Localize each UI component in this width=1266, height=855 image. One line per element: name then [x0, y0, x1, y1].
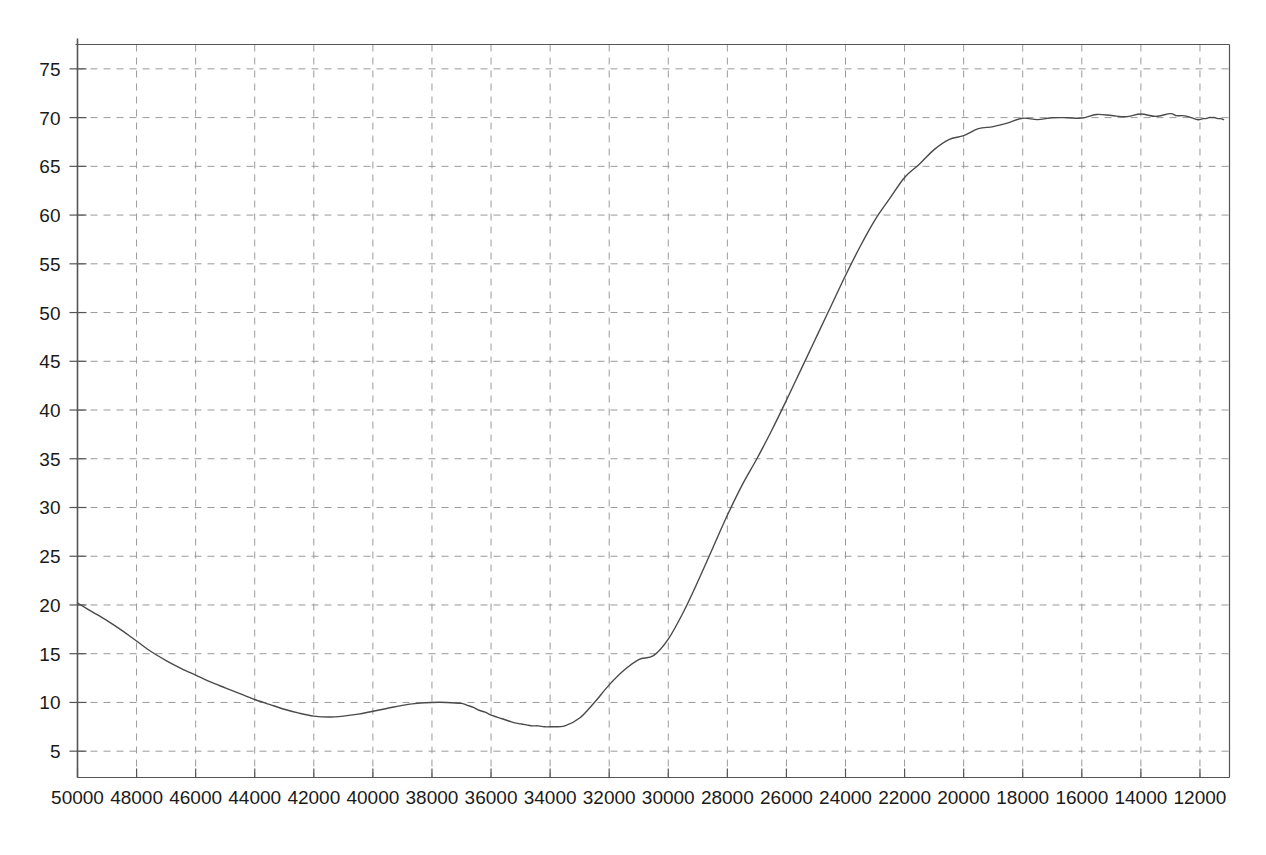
y-axis-label-40: 40 — [39, 400, 60, 421]
y-axis-label-15: 15 — [39, 644, 60, 665]
y-axis-label-25: 25 — [39, 546, 60, 567]
y-axis-label-35: 35 — [39, 449, 60, 470]
y-axis-label-70: 70 — [39, 108, 60, 129]
y-axis-label-20: 20 — [39, 595, 60, 616]
x-axis-label-38000: 38000 — [406, 787, 459, 808]
y-axis-label-65: 65 — [39, 156, 60, 177]
chart-canvas: 5000048000460004400042000400003800036000… — [0, 0, 1266, 855]
x-axis-label-42000: 42000 — [287, 787, 340, 808]
x-axis-label-30000: 30000 — [642, 787, 695, 808]
y-axis-label-55: 55 — [39, 254, 60, 275]
x-axis-label-22000: 22000 — [878, 787, 931, 808]
x-axis-label-28000: 28000 — [701, 787, 754, 808]
x-axis-label-24000: 24000 — [819, 787, 872, 808]
x-axis-label-18000: 18000 — [996, 787, 1049, 808]
x-axis-label-46000: 46000 — [169, 787, 222, 808]
y-axis-label-45: 45 — [39, 351, 60, 372]
y-axis-label-30: 30 — [39, 497, 60, 518]
x-axis-label-14000: 14000 — [1114, 787, 1167, 808]
y-axis-label-5: 5 — [50, 741, 61, 762]
chart-background — [0, 0, 1266, 855]
spectrum-chart: 5000048000460004400042000400003800036000… — [0, 0, 1266, 855]
x-axis-label-40000: 40000 — [346, 787, 399, 808]
x-axis-label-26000: 26000 — [760, 787, 813, 808]
y-axis-label-10: 10 — [39, 692, 60, 713]
x-axis-label-50000: 50000 — [51, 787, 104, 808]
y-axis-label-60: 60 — [39, 205, 60, 226]
x-axis-label-48000: 48000 — [110, 787, 163, 808]
x-axis-label-34000: 34000 — [524, 787, 577, 808]
x-axis-label-16000: 16000 — [1055, 787, 1108, 808]
x-axis-label-36000: 36000 — [465, 787, 518, 808]
x-axis-label-20000: 20000 — [937, 787, 990, 808]
x-axis-label-12000: 12000 — [1174, 787, 1227, 808]
x-axis-label-32000: 32000 — [583, 787, 636, 808]
x-axis-label-44000: 44000 — [228, 787, 281, 808]
y-axis-tick-labels: 51015202530354045505560657075 — [39, 59, 60, 762]
y-axis-label-50: 50 — [39, 303, 60, 324]
y-axis-label-75: 75 — [39, 59, 60, 80]
